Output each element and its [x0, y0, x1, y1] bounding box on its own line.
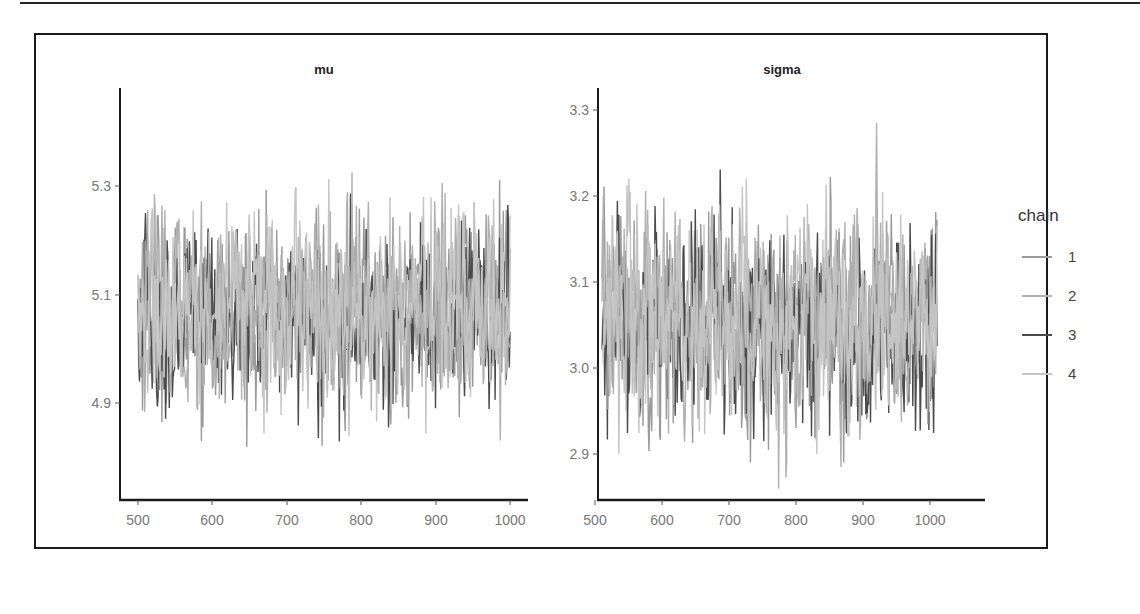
legend-label: 3 [1068, 326, 1076, 343]
sigma-y-tick-label: 3.2 [570, 188, 590, 204]
trace-plot-figure: mu 5.3 5.1 4.9 500 600 700 800 900 1000 [0, 0, 1140, 614]
sigma-panel: sigma 3.3 3.2 3.1 3.0 2.9 500 600 700 8 [570, 62, 985, 528]
sigma-y-tick-label: 3.3 [570, 102, 590, 118]
sigma-y-tick-label: 3.0 [570, 360, 590, 376]
mu-x-tick-label: 700 [275, 512, 299, 528]
legend: chain 1 2 3 4 [1018, 206, 1076, 382]
mu-x-tick-label: 500 [126, 512, 150, 528]
sigma-panel-title: sigma [763, 62, 801, 77]
sigma-x-tick-label: 800 [784, 512, 808, 528]
mu-x-tick-label: 1000 [494, 512, 525, 528]
mu-panel-title: mu [314, 62, 334, 77]
mu-y-tick-label: 4.9 [92, 395, 112, 411]
legend-title: chain [1018, 206, 1059, 225]
legend-label: 4 [1068, 365, 1076, 382]
mu-x-tick-label: 800 [349, 512, 373, 528]
mu-x-tick-label: 900 [424, 512, 448, 528]
legend-item-2: 2 [1022, 287, 1076, 304]
mu-y-ticks: 5.3 5.1 4.9 [92, 178, 120, 411]
sigma-traces [602, 123, 937, 489]
mu-x-tick-label: 600 [200, 512, 224, 528]
sigma-x-tick-label: 600 [650, 512, 674, 528]
mu-traces [138, 172, 510, 447]
sigma-y-ticks: 3.3 3.2 3.1 3.0 2.9 [570, 102, 598, 462]
legend-item-1: 1 [1022, 248, 1076, 265]
sigma-x-tick-label: 1000 [914, 512, 945, 528]
legend-label: 2 [1068, 287, 1076, 304]
legend-label: 1 [1068, 248, 1076, 265]
legend-item-4: 4 [1022, 365, 1076, 382]
sigma-x-tick-label: 500 [583, 512, 607, 528]
mu-y-tick-label: 5.1 [92, 287, 112, 303]
sigma-x-ticks: 500 600 700 800 900 1000 [583, 500, 945, 528]
mu-x-ticks: 500 600 700 800 900 1000 [126, 500, 525, 528]
sigma-y-tick-label: 2.9 [570, 446, 590, 462]
sigma-x-tick-label: 900 [851, 512, 875, 528]
sigma-x-tick-label: 700 [717, 512, 741, 528]
sigma-y-tick-label: 3.1 [570, 274, 590, 290]
legend-item-3: 3 [1022, 326, 1076, 343]
mu-y-tick-label: 5.3 [92, 178, 112, 194]
mu-panel: mu 5.3 5.1 4.9 500 600 700 800 900 1000 [92, 62, 528, 528]
